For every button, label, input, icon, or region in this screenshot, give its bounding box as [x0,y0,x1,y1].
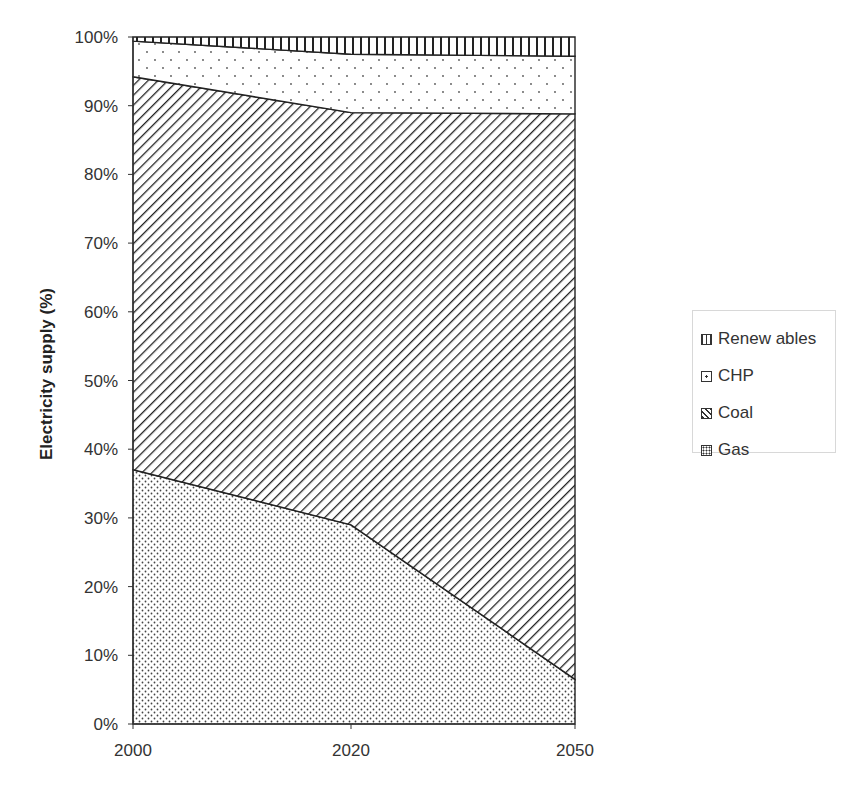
legend-label: Coal [718,403,753,423]
y-tick-label: 20% [84,578,118,597]
dots-sparse-swatch-icon [701,371,712,382]
x-tick-label: 2000 [114,741,152,760]
y-tick-label: 90% [84,97,118,116]
dots-dense-swatch-icon [701,445,712,456]
y-tick-label: 30% [84,509,118,528]
legend: Renew ablesCHPCoalGas [692,310,836,453]
legend-label: Gas [718,440,749,460]
diagonal-hatch-swatch-icon [701,408,712,419]
x-tick-label: 2050 [556,741,594,760]
y-tick-label: 70% [84,234,118,253]
x-tick-label: 2020 [332,741,370,760]
plot-area [133,37,575,724]
y-tick-label: 0% [93,715,118,734]
legend-item-renewables: Renew ables [701,328,816,350]
y-tick-label: 100% [75,28,118,47]
legend-item-coal: Coal [701,402,753,424]
y-tick-label: 50% [84,372,118,391]
y-axis-title: Electricity supply (%) [37,288,56,460]
y-tick-label: 80% [84,165,118,184]
vertical-lines-swatch-icon [701,334,712,345]
x-axis: 200020202050 [114,724,594,760]
legend-label: Renew ables [718,329,816,349]
legend-item-gas: Gas [701,439,749,461]
y-tick-label: 10% [84,646,118,665]
legend-item-chp: CHP [701,365,754,387]
y-tick-label: 60% [84,303,118,322]
legend-label: CHP [718,366,754,386]
y-axis: 0%10%20%30%40%50%60%70%80%90%100% [75,28,133,734]
y-tick-label: 40% [84,440,118,459]
